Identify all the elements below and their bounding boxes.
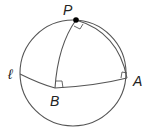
right-angle-mark-p [74, 24, 83, 29]
label-p: P [63, 3, 72, 17]
label-l: ℓ [8, 67, 13, 81]
label-b: B [50, 94, 59, 108]
arc-p-to-b [55, 20, 76, 88]
sphere-diagram [0, 0, 149, 134]
point-p [73, 17, 79, 23]
label-a: A [133, 74, 142, 88]
sphere-outline [20, 20, 126, 126]
right-angle-mark-b [56, 81, 63, 88]
great-circle-l [20, 74, 127, 88]
